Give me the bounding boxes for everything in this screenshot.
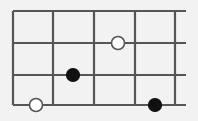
filled-circle-middle: [67, 69, 80, 82]
lattice-figure: [0, 0, 198, 121]
filled-circle-bottom-right: [149, 99, 162, 112]
open-circle-bottom-left: [30, 99, 43, 112]
lattice-canvas: [0, 0, 198, 121]
open-circle-top: [112, 37, 125, 50]
